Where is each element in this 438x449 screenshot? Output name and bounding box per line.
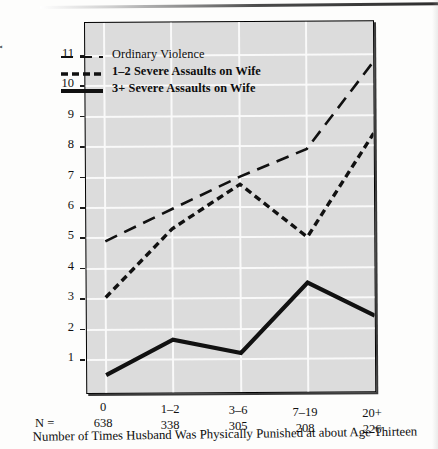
y-tick-label: 2: [48, 320, 74, 335]
x-tick-label: 20+: [337, 406, 407, 421]
series-line: [105, 133, 375, 297]
y-tick-mark: [80, 329, 85, 331]
legend-label: Ordinary Violence: [112, 47, 205, 62]
y-axis-label: Violence Rate per 100 Husbands: [0, 0, 3, 150]
legend-item-1-2-severe-assaults: 1–2 Severe Assaults on Wife: [60, 64, 290, 79]
x-tick-label: 3–6: [203, 403, 273, 418]
y-tick-label: 9: [48, 107, 74, 122]
legend: Ordinary Violence 1–2 Severe Assaults on…: [60, 47, 290, 98]
y-tick-mark: [80, 268, 85, 270]
x-tick-label: 0: [68, 400, 138, 415]
y-tick-label: 6: [48, 198, 74, 213]
legend-label: 1–2 Severe Assaults on Wife: [112, 64, 261, 79]
scan-edge-right: [432, 0, 438, 449]
legend-item-ordinary-violence: Ordinary Violence: [60, 47, 290, 62]
x-tick-label: 1–2: [135, 402, 205, 417]
series-line: [106, 282, 376, 375]
scan-edge-top: [40, 2, 438, 9]
figure: Violence Rate per 100 Husbands 123456789…: [0, 0, 438, 449]
x-tick-label: 7–19: [270, 405, 340, 420]
y-tick-label: 1: [48, 350, 74, 365]
legend-swatch-long-dash-icon: [60, 49, 104, 61]
legend-label: 3+ Severe Assaults on Wife: [112, 81, 256, 96]
legend-swatch-solid-icon: [60, 83, 104, 95]
y-tick-label: 4: [48, 259, 74, 274]
y-tick-label: 3: [48, 289, 74, 304]
y-tick-mark: [80, 359, 85, 361]
y-tick-label: 8: [48, 137, 74, 152]
y-tick-label: 7: [48, 168, 74, 183]
y-tick-mark: [80, 298, 85, 300]
y-tick-mark: [80, 237, 85, 239]
legend-item-3-plus-severe-assaults: 3+ Severe Assaults on Wife: [60, 81, 290, 96]
legend-swatch-short-dash-icon: [60, 66, 104, 78]
y-tick-label: 5: [48, 228, 74, 243]
